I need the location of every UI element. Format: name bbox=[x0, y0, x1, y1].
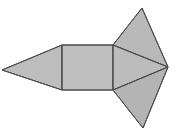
polyhedron-net-drawing bbox=[0, 0, 181, 137]
figure-canvas bbox=[0, 0, 181, 137]
face-center-rectangle bbox=[62, 45, 113, 90]
